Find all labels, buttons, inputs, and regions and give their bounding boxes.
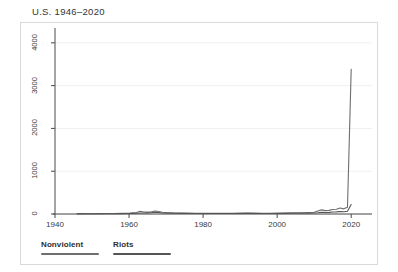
legend-label: Nonviolent [41, 240, 103, 249]
chart-figure: U.S. 1946–2020 01000200030004000 1940196… [0, 0, 398, 272]
legend-item-riots[interactable]: Riots [113, 240, 175, 255]
legend-swatch [41, 253, 99, 255]
legend-label: Riots [113, 240, 175, 249]
chart-legend: NonviolentRiots [0, 0, 398, 272]
legend-item-nonviolent[interactable]: Nonviolent [41, 240, 103, 255]
legend-swatch [113, 253, 171, 255]
